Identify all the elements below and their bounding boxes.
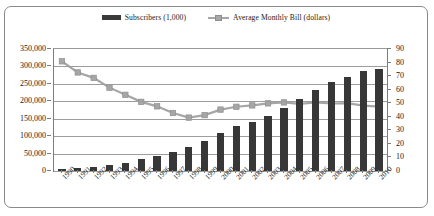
y-axis-left: 350,000300,000250,000200,000150,000100,0… <box>5 48 51 170</box>
chart-legend: Subscribers (1,000) Average Monthly Bill… <box>5 13 427 22</box>
bar-subscribers <box>296 99 303 171</box>
y-axis-left-tick-label: 150,000 <box>20 113 46 122</box>
gridline <box>54 119 387 120</box>
bar-subscribers <box>375 69 382 171</box>
y-axis-right-tick <box>387 102 391 103</box>
y-axis-right-tick-label: 40 <box>396 111 404 120</box>
line-marker-average-monthly-bill <box>75 70 80 75</box>
y-axis-left-tick <box>47 48 51 49</box>
y-axis-left-tick <box>47 135 51 136</box>
y-axis-left-tick <box>47 170 51 171</box>
gridline <box>54 66 387 67</box>
legend-item-average-monthly-bill: Average Monthly Bill (dollars) <box>208 13 330 22</box>
line-marker-average-monthly-bill <box>218 107 223 112</box>
x-axis-labels: 1990199119921993199419951996199719981999… <box>53 172 386 216</box>
y-axis-right-tick <box>387 48 391 49</box>
y-axis-right-tick-label: 20 <box>396 138 404 147</box>
y-axis-right-tick-label: 90 <box>396 44 404 53</box>
y-axis-right-tick-label: 30 <box>396 125 404 134</box>
y-axis-right-tick <box>387 116 391 117</box>
y-axis-right-tick-label: 80 <box>396 57 404 66</box>
y-axis-left-tick-label: 250,000 <box>20 78 46 87</box>
legend-label-average-monthly-bill: Average Monthly Bill (dollars) <box>233 13 330 22</box>
line-marker-average-monthly-bill <box>123 92 128 97</box>
y-axis-right: 9080706050403020100 <box>387 48 434 170</box>
y-axis-right-tick-label: 10 <box>396 152 404 161</box>
line-marker-average-monthly-bill <box>154 104 159 109</box>
plot-area <box>53 48 388 172</box>
bar-swatch-icon <box>102 15 121 20</box>
bar-subscribers <box>280 108 287 171</box>
line-marker-average-monthly-bill <box>91 75 96 80</box>
y-axis-left-tick <box>47 100 51 101</box>
y-axis-left-tick <box>47 65 51 66</box>
y-axis-left-tick <box>47 83 51 84</box>
bar-subscribers <box>185 147 192 171</box>
gridline <box>54 84 387 85</box>
line-marker-average-monthly-bill <box>107 85 112 90</box>
bar-subscribers <box>169 152 176 171</box>
y-axis-right-tick <box>387 156 391 157</box>
y-axis-left-tick-label: 100,000 <box>20 131 46 140</box>
gridline <box>54 101 387 102</box>
line-marker-average-monthly-bill <box>202 112 207 117</box>
legend-item-subscribers: Subscribers (1,000) <box>102 13 186 22</box>
y-axis-right-tick-label: 50 <box>396 98 404 107</box>
line-marker-swatch-icon <box>208 14 229 21</box>
y-axis-right-tick <box>387 143 391 144</box>
chart-frame: Subscribers (1,000) Average Monthly Bill… <box>4 6 428 208</box>
y-axis-right-tick <box>387 75 391 76</box>
line-marker-average-monthly-bill <box>250 103 255 108</box>
y-axis-right-tick-label: 0 <box>396 166 400 175</box>
bar-subscribers <box>312 90 319 171</box>
bar-subscribers <box>233 126 240 171</box>
bar-subscribers <box>249 122 256 171</box>
line-marker-average-monthly-bill <box>170 110 175 115</box>
line-marker-average-monthly-bill <box>59 59 64 64</box>
y-axis-left-tick <box>47 153 51 154</box>
y-axis-left-tick-label: 50,000 <box>24 148 46 157</box>
y-axis-left-tick <box>47 118 51 119</box>
bar-subscribers <box>328 82 335 171</box>
bar-subscribers <box>344 77 351 171</box>
y-axis-left-tick-label: 300,000 <box>20 61 46 70</box>
bar-subscribers <box>217 133 224 171</box>
y-axis-right-tick <box>387 89 391 90</box>
bar-subscribers <box>201 141 208 171</box>
y-axis-left-tick-label: 350,000 <box>20 44 46 53</box>
y-axis-right-tick <box>387 129 391 130</box>
line-marker-average-monthly-bill <box>234 104 239 109</box>
bar-subscribers <box>360 71 367 171</box>
y-axis-left-tick-label: 0 <box>42 166 46 175</box>
y-axis-right-tick <box>387 62 391 63</box>
y-axis-right-tick-label: 60 <box>396 84 404 93</box>
bar-subscribers <box>264 116 271 171</box>
legend-label-subscribers: Subscribers (1,000) <box>125 13 186 22</box>
y-axis-left-tick-label: 200,000 <box>20 96 46 105</box>
y-axis-right-tick-label: 70 <box>396 71 404 80</box>
